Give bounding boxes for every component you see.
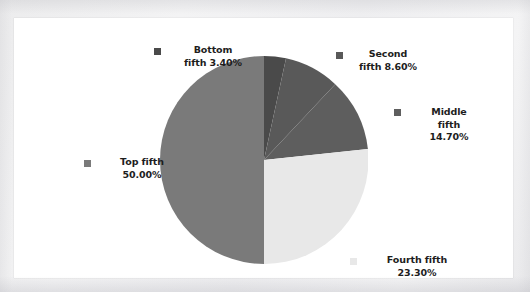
pie-label-top-fifth-line1: Top fifth — [100, 156, 184, 169]
pie-label-second-fifth-line1: Second — [350, 48, 426, 61]
legend-marker-bottom-fifth — [154, 48, 161, 55]
pie-label-fourth-fifth-line2: 23.30% — [366, 267, 468, 280]
legend-marker-fourth-fifth — [350, 258, 357, 265]
pie-label-top-fifth-line2: 50.00% — [100, 169, 184, 182]
pie-label-middle-fifth: Middle fifth 14.70% — [384, 106, 488, 144]
pie-svg — [160, 56, 368, 264]
pie-label-fourth-fifth: Fourth fifth 23.30% — [350, 254, 468, 279]
pie-label-second-fifth-line2: fifth 8.60% — [350, 61, 426, 74]
legend-marker-middle-fifth — [394, 109, 401, 116]
legend-marker-second-fifth — [336, 52, 343, 59]
pie-label-bottom-fifth-line2: fifth 3.40% — [170, 57, 256, 70]
pie-label-second-fifth: Second fifth 8.60% — [322, 48, 426, 73]
pie-slice-fourth-fifth[interactable] — [264, 149, 368, 264]
pie-label-middle-fifth-line3: 14.70% — [410, 131, 488, 144]
pie-chart — [14, 18, 513, 278]
pie-label-bottom-fifth-line1: Bottom — [170, 44, 256, 57]
chart-panel: Bottom fifth 3.40% Second fifth 8.60% Mi… — [14, 18, 513, 278]
pie-label-middle-fifth-line1: Middle — [410, 106, 488, 119]
legend-marker-top-fifth — [84, 160, 91, 167]
pie-label-top-fifth: Top fifth 50.00% — [80, 156, 184, 181]
pie-label-middle-fifth-line2: fifth — [410, 119, 488, 132]
pie-label-bottom-fifth: Bottom fifth 3.40% — [152, 44, 256, 69]
pie-label-fourth-fifth-line1: Fourth fifth — [366, 254, 468, 267]
scanned-page: Bottom fifth 3.40% Second fifth 8.60% Mi… — [0, 0, 530, 292]
